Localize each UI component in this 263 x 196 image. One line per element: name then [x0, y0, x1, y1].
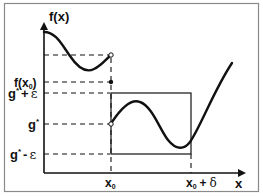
y-axis-label: f(x): [49, 9, 69, 24]
open-circle-left-limit: [109, 53, 113, 57]
filled-dot-fx0: [109, 80, 113, 84]
x-axis-label: x: [235, 176, 243, 191]
diagram-canvas: f(x) x f(x0) g*+ε g* g*-ε x0 x0+δ: [0, 0, 263, 196]
open-circle-gstar: [109, 122, 113, 126]
label-g-plus-eps: g*+ε: [8, 86, 38, 101]
label-g-minus-eps: g*-ε: [10, 147, 36, 162]
label-g-star: g*: [28, 117, 40, 132]
label-x0-plus-delta: x0+δ: [186, 176, 217, 190]
epsilon-delta-box: [111, 93, 191, 154]
curve-left: [44, 32, 110, 70]
label-x0: x0: [105, 176, 116, 190]
curve-right: [112, 63, 232, 148]
outer-frame: [5, 4, 259, 192]
